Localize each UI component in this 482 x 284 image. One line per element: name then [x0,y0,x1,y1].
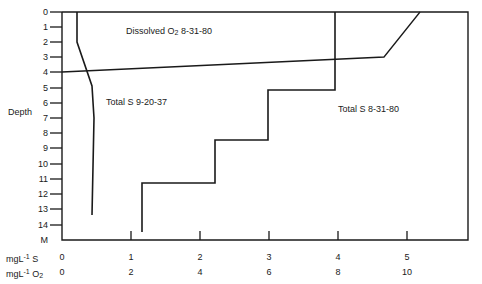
oxygen-unit-prefix: mgL [6,269,24,279]
depth-tick-14: 14 [26,221,48,230]
depth-tick-4: 4 [26,68,48,77]
depth-unit-symbol: M [26,236,48,245]
depth-tick-1: 1 [26,23,48,32]
oxygen-unit-subscript: 2 [39,272,43,279]
depth-tick-3: 3 [26,53,48,62]
plot-area [0,0,482,284]
sulfur-unit-prefix: mgL [6,254,24,264]
depth-tick-0: 0 [26,8,48,17]
sulfur-unit-exponent: -1 [24,253,30,260]
depth-tick-7: 7 [26,114,48,123]
x-tick-marks [131,231,407,240]
sulfur-unit-label: mgL-1 S [6,252,38,264]
depth-tick-8: 8 [26,129,48,138]
s-tick-5: 5 [394,253,420,262]
series-dissolved-o2 [62,12,420,72]
depth-tick-2: 2 [26,38,48,47]
s-tick-2: 2 [187,253,213,262]
o2-tick-2: 2 [118,268,144,277]
depth-profile-figure: Depth 0 1 2 3 4 5 6 7 8 9 10 11 12 13 14… [0,0,482,284]
oxygen-unit-exponent: -1 [24,268,30,275]
s-tick-3: 3 [256,253,282,262]
depth-tick-5: 5 [26,84,48,93]
s-tick-4: 4 [325,253,351,262]
depth-tick-11: 11 [26,175,48,184]
o2-tick-6: 6 [256,268,282,277]
annotation-dissolved-o2: Dissolved O2 8-31-80 [126,26,212,38]
sulfur-unit-species: S [32,254,38,264]
plot-frame [62,12,468,240]
o2-tick-0: 0 [49,268,75,277]
series-total-s-1980 [142,12,335,232]
depth-tick-12: 12 [26,190,48,199]
depth-tick-marks [50,12,62,225]
annotation-total-s-1937: Total S 9-20-37 [106,97,167,107]
o2-tick-4: 4 [187,268,213,277]
annotation-total-s-1980: Total S 8-31-80 [338,104,399,114]
depth-tick-10: 10 [26,160,48,169]
depth-tick-13: 13 [26,205,48,214]
oxygen-unit-label: mgL-1 O2 [6,267,43,281]
depth-tick-9: 9 [26,144,48,153]
annotation-dissolved-o2-pre: Dissolved O [126,26,175,36]
depth-tick-6: 6 [26,99,48,108]
o2-tick-10: 10 [394,268,420,277]
s-tick-1: 1 [118,253,144,262]
series-total-s-1937 [77,12,94,215]
annotation-dissolved-o2-post: 8-31-80 [178,26,212,36]
o2-tick-8: 8 [325,268,351,277]
s-tick-0: 0 [49,253,75,262]
